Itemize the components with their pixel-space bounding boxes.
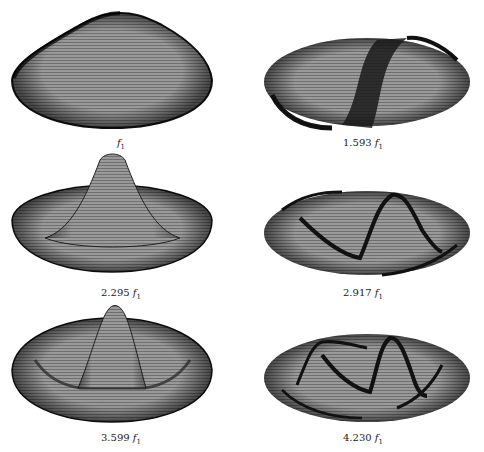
- mode-panel-1: f1: [0, 0, 242, 150]
- mode-shape-antisymmetric-3: [242, 300, 484, 452]
- mode-label-4: 2.917 f1: [242, 287, 484, 301]
- mode-label-2: 1.593 f1: [242, 137, 484, 151]
- mode-shape-central-peak: [0, 150, 242, 305]
- mode-label-6: 4.230 f1: [242, 432, 484, 446]
- mode-label-3: 2.295 f1: [0, 287, 242, 301]
- mode-panel-4: 2.917 f1: [242, 150, 484, 305]
- mode-shape-dome: [0, 0, 242, 150]
- mode-shape-antisymmetric-1: [242, 0, 484, 150]
- mode-panel-6: 4.230 f1: [242, 300, 484, 452]
- mode-panel-5: 3.599 f1: [0, 300, 242, 452]
- mode-panel-3: 2.295 f1: [0, 150, 242, 305]
- mode-panel-2: 1.593 f1: [242, 0, 484, 150]
- mode-shape-peak-with-ring: [0, 300, 242, 452]
- mode-shape-antisymmetric-2: [242, 150, 484, 305]
- mode-label-5: 3.599 f1: [0, 432, 242, 446]
- mode-label-1: f1: [0, 137, 242, 151]
